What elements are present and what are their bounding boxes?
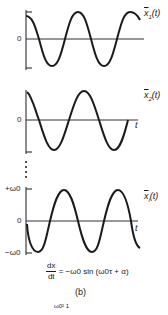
ellipsis-dot [25,176,27,178]
ellipsis-dot [25,161,27,163]
footer-fragment: ω0² 1 [54,303,69,309]
panel2-t-label: t [135,121,138,130]
panel3-series-label: xi(t) [144,192,158,203]
panel3-top-label: +ω0 [5,185,20,193]
panel1-series-label: x1(t) [144,9,160,20]
ellipsis-dot [25,166,27,168]
equation-numerator: dx [46,262,56,272]
ellipsis-dot [25,171,27,173]
panel3-t-label: t [135,224,138,233]
equation-denominator: dt [46,272,56,281]
figure-caption: (b) [75,288,86,297]
panel2-curve [27,91,128,150]
equation: dx dt = −ω0 sin (ω0τ + α) [46,262,129,281]
panel2-series-label: x2(t) [144,91,160,102]
equation-rhs: = −ω0 sin (ω0τ + α) [59,267,129,276]
panel3-zero-label: 0 [17,217,21,225]
panel2-zero-label: 0 [17,116,21,124]
panel3-bottom-label: −ω0 [5,249,20,257]
panel1-zero-label: 0 [17,35,21,43]
